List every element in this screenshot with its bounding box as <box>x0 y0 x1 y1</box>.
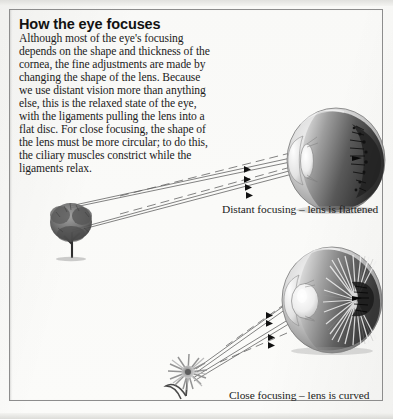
caption-distant-focusing: Distant focusing – lens is flattened <box>222 203 378 215</box>
eyeball-bottom-curved-lens <box>282 247 382 355</box>
scanned-page: How the eye focuses Although most of the… <box>0 0 393 419</box>
flower-illustration <box>166 354 207 399</box>
body-line: Although most of the eye's focusing <box>19 33 201 46</box>
light-rays-close <box>193 296 296 381</box>
body-paragraph: Although most of the eye's focusing depe… <box>19 33 201 175</box>
body-line: changing the shape of the lens. Because <box>19 72 201 85</box>
body-line: we use distant vision more than anything <box>19 85 201 98</box>
eyeball-top-flattened-lens <box>287 108 385 214</box>
body-line: else, this is the relaxed state of the e… <box>19 98 201 111</box>
body-line: depends on the shape and thickness of th… <box>19 46 201 59</box>
body-line: with the ligaments pulling the lens into… <box>19 111 201 124</box>
body-line: flat disc. For close focusing, the shape… <box>19 124 201 137</box>
page-title: How the eye focuses <box>19 16 161 32</box>
body-line: the lens must be more circular; to do th… <box>19 137 201 150</box>
tree-illustration <box>50 203 92 261</box>
body-line: the ciliary muscles constrict while the <box>19 150 201 163</box>
caption-close-focusing: Close focusing – lens is curved <box>229 389 370 401</box>
body-line: ligaments relax. <box>19 163 201 176</box>
body-line: cornea, the fine adjustments are made by <box>19 59 201 72</box>
